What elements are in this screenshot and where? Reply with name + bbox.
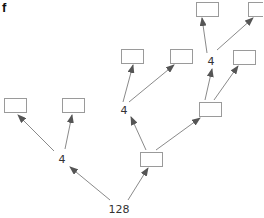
- arrow-boxE-to-boxF: [156, 118, 200, 150]
- arrow-root-to-n4a: [70, 167, 110, 200]
- empty-box-boxH: [197, 3, 219, 17]
- node-label-n4a: 4: [59, 153, 66, 166]
- arrow-boxF-to-n4c: [205, 69, 212, 100]
- empty-box-boxA: [5, 99, 27, 113]
- tree-diagram: 128444: [0, 0, 263, 218]
- node-label-n4b: 4: [121, 104, 128, 117]
- empty-box-boxF: [200, 103, 222, 117]
- arrow-n4a-to-boxA: [18, 115, 54, 151]
- arrow-n4c-to-boxI: [217, 18, 253, 50]
- arrow-n4c-to-boxH: [202, 18, 207, 53]
- nodes: 128444: [5, 3, 264, 217]
- arrow-root-to-boxE: [128, 168, 148, 200]
- node-label-n4c: 4: [208, 55, 215, 68]
- empty-box-boxI: [249, 3, 264, 17]
- node-label-root: 128: [109, 203, 130, 216]
- empty-box-boxD: [171, 50, 193, 64]
- arrow-boxE-to-n4b: [131, 117, 146, 150]
- arrow-n4b-to-boxD: [129, 65, 174, 102]
- arrow-n4b-to-boxC: [123, 65, 133, 102]
- empty-box-boxG: [234, 51, 256, 65]
- empty-box-boxB: [63, 99, 85, 113]
- arrow-boxF-to-boxG: [214, 66, 238, 100]
- arrow-n4a-to-boxB: [65, 115, 72, 149]
- empty-box-boxE: [141, 153, 163, 167]
- empty-box-boxC: [122, 50, 144, 64]
